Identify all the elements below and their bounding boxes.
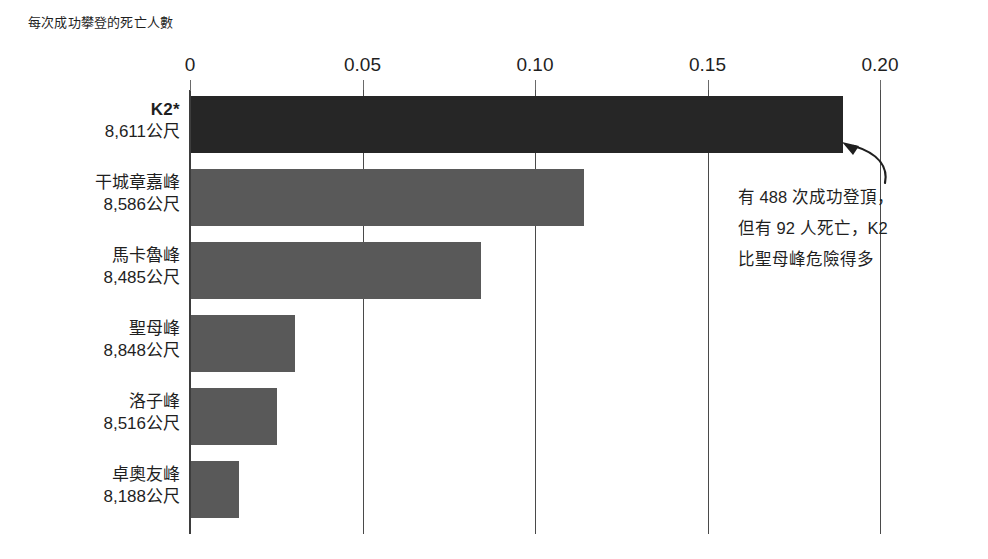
category-elevation: 8,516公尺	[103, 413, 180, 435]
x-tick-label: 0.05	[344, 54, 381, 76]
gridline	[708, 90, 709, 534]
x-tick-label: 0.10	[517, 54, 554, 76]
category-elevation: 8,611公尺	[105, 121, 180, 143]
x-tick-label: 0.20	[862, 54, 899, 76]
annotation-line: 但有 92 人死亡，K2	[738, 213, 988, 244]
annotation-line: 有 488 次成功登頂，	[738, 182, 988, 213]
category-label: 卓奧友峰8,188公尺	[103, 464, 180, 508]
bar-1[interactable]	[191, 96, 843, 153]
category-label: 洛子峰8,516公尺	[103, 391, 180, 435]
bar-2[interactable]	[191, 169, 584, 226]
plot-area: 00.050.100.150.20 K2*8,611公尺干城章嘉峰8,586公尺…	[0, 0, 988, 559]
x-tick-label: 0	[185, 54, 196, 76]
category-name: 干城章嘉峰	[95, 172, 180, 194]
category-elevation: 8,188公尺	[103, 486, 180, 508]
annotation-line: 比聖母峰危險得多	[738, 244, 988, 275]
category-name: 洛子峰	[103, 391, 180, 413]
category-elevation: 8,586公尺	[95, 194, 180, 216]
category-label: 馬卡魯峰8,485公尺	[103, 245, 180, 289]
category-label: 聖母峰8,848公尺	[103, 318, 180, 362]
annotation-callout: 有 488 次成功登頂，但有 92 人死亡，K2比聖母峰危險得多	[738, 182, 988, 275]
death-rate-bar-chart: 每次成功攀登的死亡人數 00.050.100.150.20 K2*8,611公尺…	[0, 0, 988, 559]
category-elevation: 8,485公尺	[103, 267, 180, 289]
category-name: 聖母峰	[103, 318, 180, 340]
category-name: 馬卡魯峰	[103, 245, 180, 267]
bar-6[interactable]	[191, 461, 239, 518]
gridline	[880, 90, 881, 534]
category-label: 干城章嘉峰8,586公尺	[95, 172, 180, 216]
gridline	[535, 90, 536, 534]
x-tick-label: 0.15	[689, 54, 726, 76]
gridline	[363, 90, 364, 534]
bar-4[interactable]	[191, 315, 295, 372]
category-label: K2*8,611公尺	[105, 99, 180, 143]
category-name: 卓奧友峰	[103, 464, 180, 486]
x-tick-mark	[190, 80, 191, 91]
bar-5[interactable]	[191, 388, 277, 445]
category-elevation: 8,848公尺	[103, 340, 180, 362]
category-name: K2*	[105, 99, 180, 121]
bar-3[interactable]	[191, 242, 481, 299]
